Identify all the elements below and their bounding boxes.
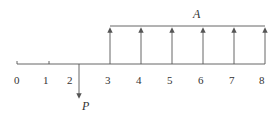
period-label: 4: [136, 74, 142, 86]
annuity-arrows: [110, 30, 265, 64]
cash-flow-diagram: A P 0 1 2 3 4 5 6 7 8: [0, 0, 280, 120]
period-label: 5: [167, 74, 173, 86]
diagram-svg: A P 0 1 2 3 4 5 6 7 8: [0, 0, 280, 120]
present-value-label: P: [81, 99, 90, 113]
period-label: 7: [229, 74, 235, 86]
period-label: 1: [43, 74, 49, 86]
period-label: 8: [259, 74, 265, 86]
period-label: 6: [198, 74, 204, 86]
period-label: 2: [67, 74, 73, 86]
period-label: 0: [14, 74, 20, 86]
period-label: 3: [105, 74, 111, 86]
annuity-label: A: [192, 7, 201, 21]
